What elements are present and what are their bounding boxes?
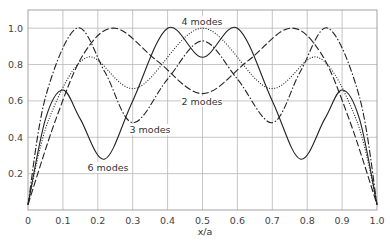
- y-axis-ticks: 0.20.40.60.81.0: [8, 23, 23, 179]
- curve-label: 4 modes: [182, 16, 223, 27]
- x-tick-label: 0.3: [125, 215, 140, 226]
- x-tick-label: 0.7: [265, 215, 280, 226]
- mode-shape-chart: 00.10.20.30.40.50.60.70.80.91.0 0.20.40.…: [0, 0, 390, 244]
- x-tick-label: 1.0: [369, 215, 384, 226]
- x-axis-ticks: 00.10.20.30.40.50.60.70.80.91.0: [25, 215, 385, 226]
- x-tick-label: 0: [25, 215, 31, 226]
- curve-label: 3 modes: [130, 124, 171, 135]
- x-axis-label: x/a: [198, 226, 213, 237]
- y-tick-label: 0.2: [8, 168, 23, 179]
- x-tick-label: 0.9: [335, 215, 350, 226]
- x-tick-label: 0.5: [195, 215, 210, 226]
- x-tick-label: 0.4: [160, 215, 175, 226]
- curve-label: 2 modes: [182, 96, 223, 107]
- y-tick-label: 0.6: [8, 95, 23, 106]
- x-tick-label: 0.6: [230, 215, 245, 226]
- y-tick-label: 0.8: [8, 59, 23, 70]
- grid-lines: [28, 10, 377, 210]
- x-tick-label: 0.8: [300, 215, 315, 226]
- x-tick-label: 0.2: [90, 215, 105, 226]
- x-tick-label: 0.1: [55, 215, 70, 226]
- y-tick-label: 0.4: [8, 132, 23, 143]
- curve-label: 6 modes: [88, 162, 129, 173]
- y-tick-label: 1.0: [8, 23, 23, 34]
